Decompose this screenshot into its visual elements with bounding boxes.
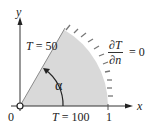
angle-label: α (55, 79, 62, 93)
x-axis-arrowhead (125, 104, 133, 109)
y-axis-label: y (16, 6, 21, 18)
x-axis-label: x (137, 100, 142, 112)
arc-boundary-fraction: ∂T ∂n (108, 39, 123, 66)
diagram-graphics (0, 0, 151, 127)
origin-marker (17, 103, 23, 109)
bottom-boundary-condition: T = 100 (52, 111, 89, 123)
wedge-diagram: y x 0 1 T = 50 T = 100 ∂T ∂n = 0 α (0, 0, 151, 127)
top-boundary-condition: T = 50 (26, 40, 57, 52)
arc-boundary-value: = 0 (129, 46, 145, 58)
origin-label: 0 (8, 111, 14, 123)
x-tick-label-1: 1 (106, 111, 112, 123)
